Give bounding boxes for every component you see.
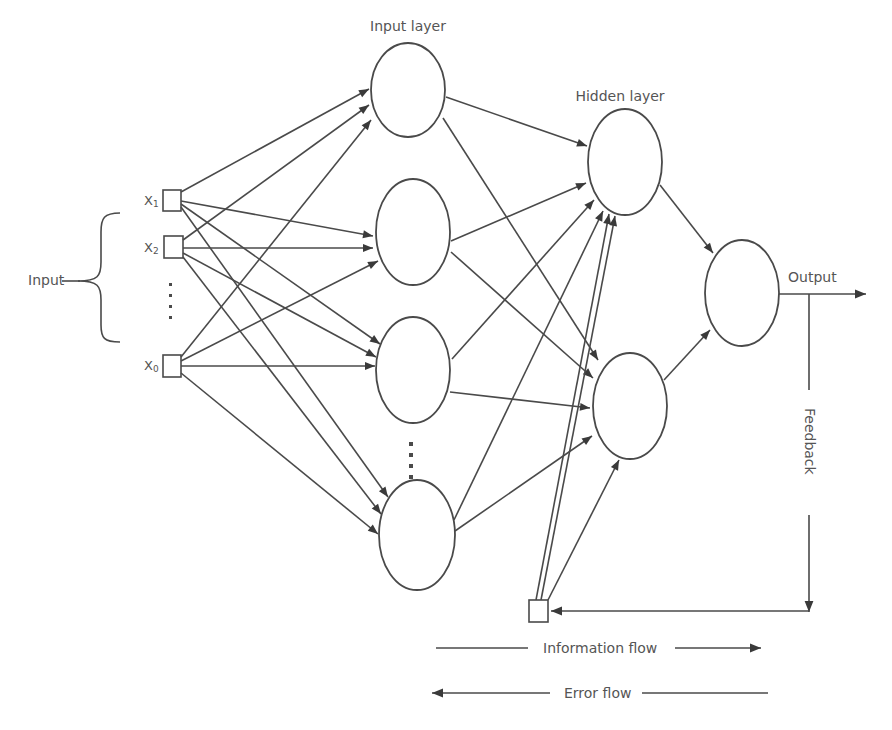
edge-xn-n4	[181, 373, 378, 534]
edge-x1-n4	[181, 207, 388, 497]
input-xn-label: X0	[144, 358, 159, 374]
edge-n1-h2	[443, 118, 598, 360]
edge-n3-h2	[450, 392, 590, 408]
error-box	[529, 600, 548, 622]
input-layer-node-1	[371, 43, 445, 137]
edge-h2-out	[664, 330, 710, 380]
input-x1: X1	[144, 190, 181, 211]
edge-n4-h2	[455, 436, 592, 531]
input-layer-label: Input layer	[370, 18, 446, 34]
edge-xn-n1	[181, 120, 371, 357]
input-group: Input	[28, 213, 120, 342]
edge-n1-h1	[446, 97, 587, 146]
output-layer: Output	[705, 240, 866, 346]
input-xn-box	[163, 355, 181, 377]
information-flow-label: Information flow	[543, 640, 657, 656]
input-x2-box	[164, 236, 183, 258]
input-edges	[181, 89, 388, 534]
edge-x1-n1	[181, 89, 369, 192]
input-x2: X2	[144, 236, 183, 258]
hidden-edges	[443, 97, 603, 531]
input-ellipsis-icon	[169, 283, 172, 319]
edge-n3-h1	[452, 200, 594, 359]
input-group-label: Input	[28, 272, 65, 288]
feedback-label: Feedback	[802, 408, 818, 476]
edge-n2-h2	[451, 252, 593, 378]
edge-x2-n3	[183, 253, 376, 357]
input-layer: Input layer	[370, 18, 455, 590]
output-label: Output	[788, 269, 837, 285]
edge-x1-n2	[181, 201, 373, 236]
hidden-layer: Hidden layer	[575, 88, 667, 459]
output-node	[705, 240, 779, 346]
input-x1-label: X1	[144, 193, 159, 209]
feedback-path: Feedback	[529, 294, 818, 622]
input-xn: X0	[144, 355, 181, 377]
hidden-layer-node-2	[593, 353, 667, 459]
input-x2-label: X2	[144, 240, 159, 256]
hidden-layer-label: Hidden layer	[575, 88, 664, 104]
edge-x1-n3	[181, 204, 380, 344]
input-brace-icon	[78, 213, 120, 342]
edge-h1-out	[660, 185, 713, 253]
error-flow-label: Error flow	[564, 685, 631, 701]
input-layer-ellipsis-icon	[409, 442, 413, 479]
hidden-layer-node-1	[588, 109, 662, 215]
input-layer-node-4	[379, 480, 455, 590]
input-layer-node-3	[376, 317, 450, 423]
legend: Information flow Error flow	[432, 640, 768, 701]
edge-x2-n4	[183, 257, 381, 514]
input-x1-box	[163, 190, 181, 211]
edge-x2-n1	[183, 105, 369, 240]
input-layer-node-2	[376, 179, 450, 285]
neural-network-diagram: Input X1 X2 X0	[0, 0, 892, 730]
